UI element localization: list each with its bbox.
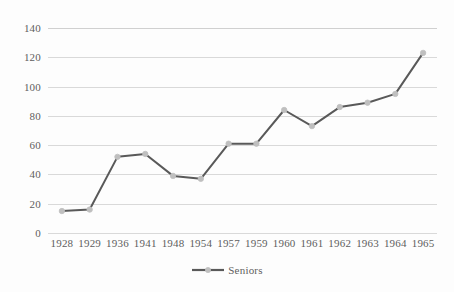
data-point <box>115 154 120 159</box>
x-axis-label-1936: 1936 <box>106 237 129 249</box>
data-point <box>143 151 148 156</box>
x-axis-label-1941: 1941 <box>134 237 157 249</box>
data-point <box>198 176 203 181</box>
line-chart: 020406080100120140 192819291936194119481… <box>0 0 454 292</box>
legend-label-seniors: Seniors <box>228 264 262 276</box>
y-axis-label-120: 120 <box>24 51 41 63</box>
x-axis-label-1928: 1928 <box>50 237 73 249</box>
data-point <box>59 208 64 213</box>
data-point <box>365 100 370 105</box>
y-axis-label-100: 100 <box>24 81 41 93</box>
data-point <box>226 141 231 146</box>
y-axis-label-140: 140 <box>24 22 41 34</box>
x-axis-label-1960: 1960 <box>273 237 296 249</box>
x-axis-label-1929: 1929 <box>78 237 101 249</box>
x-axis-label-1959: 1959 <box>245 237 268 249</box>
series-seniors <box>48 28 437 233</box>
y-axis-label-60: 60 <box>30 139 41 151</box>
x-axis-label-1965: 1965 <box>412 237 435 249</box>
y-axis-label-80: 80 <box>30 110 41 122</box>
data-point <box>337 104 342 109</box>
x-axis-tick-labels: 1928192919361941194819541957195919601961… <box>48 237 437 257</box>
y-axis-label-20: 20 <box>30 198 41 210</box>
x-axis-label-1963: 1963 <box>356 237 379 249</box>
series-line-seniors <box>62 53 423 211</box>
y-axis-label-40: 40 <box>30 168 41 180</box>
gridline-0 <box>48 233 437 234</box>
legend-line-marker-icon <box>191 265 225 275</box>
data-point <box>393 91 398 96</box>
x-axis-label-1957: 1957 <box>217 237 240 249</box>
x-axis-label-1961: 1961 <box>301 237 324 249</box>
data-point <box>281 107 286 112</box>
plot-area: 020406080100120140 <box>48 28 437 233</box>
x-axis-label-1964: 1964 <box>384 237 407 249</box>
y-axis-label-0: 0 <box>35 227 41 239</box>
chart-legend: Seniors <box>0 264 454 276</box>
legend-item-seniors: Seniors <box>191 264 262 276</box>
data-point <box>254 141 259 146</box>
data-point <box>170 173 175 178</box>
data-point <box>420 50 425 55</box>
x-axis-label-1954: 1954 <box>189 237 212 249</box>
data-point <box>309 123 314 128</box>
x-axis-label-1962: 1962 <box>328 237 351 249</box>
x-axis-label-1948: 1948 <box>162 237 185 249</box>
data-point <box>87 207 92 212</box>
